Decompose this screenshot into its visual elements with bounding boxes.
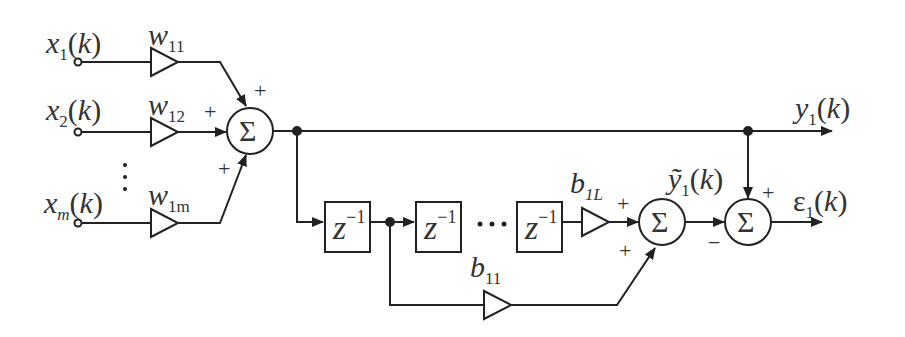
input-x2-sub: 2 bbox=[59, 112, 68, 131]
summer1-sign-left: + bbox=[204, 101, 216, 123]
weight-w12-sub: 12 bbox=[168, 107, 185, 126]
error-name: ε bbox=[793, 184, 806, 217]
tap-label-b11: b11 bbox=[470, 252, 501, 287]
input-x1-arg: (k) bbox=[68, 26, 101, 59]
estimate-sub: 1 bbox=[681, 181, 690, 200]
weight-w12-name: w bbox=[148, 88, 168, 121]
delay-2-base: z bbox=[424, 209, 437, 246]
output-label-y1: y1(k) bbox=[795, 93, 850, 128]
output-y1-name: y bbox=[795, 91, 808, 124]
input-ellipsis-icon bbox=[123, 163, 127, 191]
input-x1-sub: 1 bbox=[59, 45, 68, 64]
summer2-sign-bottom: + bbox=[619, 240, 631, 262]
weight-w11-name: w bbox=[148, 18, 168, 51]
delay-3-base: z bbox=[525, 209, 538, 246]
weight-label-w1m: w1m bbox=[148, 180, 190, 215]
summer3-sign-left: − bbox=[708, 232, 720, 254]
weight-w1m-name: w bbox=[148, 178, 168, 211]
tap-b11-icon bbox=[484, 291, 511, 319]
summer1-sign-top: + bbox=[254, 80, 266, 102]
weight-w11-sub: 11 bbox=[168, 37, 184, 56]
output-y1-arg: (k) bbox=[817, 91, 850, 124]
input-x2-name: x bbox=[46, 93, 59, 126]
error-sub: 1 bbox=[806, 203, 815, 222]
delay-1-exp: −1 bbox=[346, 207, 365, 227]
input-xm-name: x bbox=[44, 186, 57, 219]
tap-b11-sub: 11 bbox=[485, 269, 501, 288]
summer1-symbol: Σ bbox=[239, 116, 256, 146]
summer1-sign-bottom: + bbox=[218, 158, 230, 180]
delay-label-3: z−1 bbox=[525, 208, 557, 245]
delay-3-exp: −1 bbox=[538, 207, 557, 227]
tap-label-b1L: b1L bbox=[570, 168, 603, 203]
delay-label-2: z−1 bbox=[424, 208, 456, 245]
tap-b1L-name: b bbox=[570, 166, 585, 199]
input-label-xm: xm(k) bbox=[44, 188, 103, 223]
delay-ellipsis-icon bbox=[478, 222, 507, 227]
delay-label-1: z−1 bbox=[333, 208, 365, 245]
weight-label-w12: w12 bbox=[148, 90, 185, 125]
estimate-label-y1-tilde: ỹ1(k) bbox=[668, 164, 723, 199]
summer3-symbol: Σ bbox=[737, 207, 754, 237]
tap-b1L-icon bbox=[582, 208, 609, 236]
input-x1-name: x bbox=[46, 26, 59, 59]
weight-label-w11: w11 bbox=[148, 20, 184, 55]
tap-b1L-sub: 1L bbox=[585, 185, 603, 204]
delay-2-exp: −1 bbox=[437, 207, 456, 227]
estimate-name: ỹ bbox=[668, 162, 681, 195]
input-x2-arg: (k) bbox=[68, 93, 101, 126]
input-label-x2: x2(k) bbox=[46, 95, 101, 130]
error-label-e1: ε1(k) bbox=[793, 186, 847, 221]
estimate-arg: (k) bbox=[690, 162, 723, 195]
weight-w1m-sub: 1m bbox=[168, 197, 190, 216]
error-arg: (k) bbox=[814, 184, 847, 217]
input-xm-sub: m bbox=[57, 205, 69, 224]
diagram-canvas bbox=[0, 0, 905, 337]
input-xm-arg: (k) bbox=[70, 186, 103, 219]
input-label-x1: x1(k) bbox=[46, 28, 101, 63]
delay-1-base: z bbox=[333, 209, 346, 246]
summer2-symbol: Σ bbox=[651, 207, 668, 237]
summer2-sign-left: + bbox=[617, 193, 629, 215]
summer3-sign-top: + bbox=[762, 182, 774, 204]
tap-b11-name: b bbox=[470, 250, 485, 283]
output-y1-sub: 1 bbox=[808, 110, 817, 129]
